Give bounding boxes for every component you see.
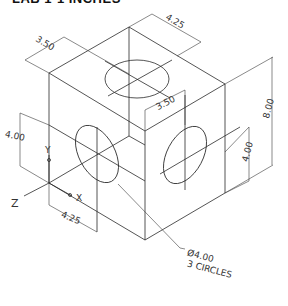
dim-label-top-depth: 3.50: [34, 34, 57, 53]
dim-left-hole-height: 4.00: [4, 113, 49, 183]
dim-label-left-hole-height: 4.00: [4, 129, 26, 143]
dim-label-bottom-width: 4.25: [60, 209, 82, 226]
dim-height-total: 8.00: [225, 57, 276, 193]
axis-label-z: Z: [11, 197, 19, 210]
dim-label-height-total: 8.00: [261, 97, 276, 119]
dim-label-front-inner: 3.50: [154, 94, 177, 112]
dim-label-right-hole-height: 4.00: [240, 140, 255, 162]
ucs-axes: Y X Z: [11, 145, 82, 210]
right-hole: [155, 95, 240, 191]
dim-top-depth: 3.50: [25, 34, 129, 74]
isometric-drawing: 3.50 4.25 3.50 8.00 4.00 4.00: [0, 0, 288, 306]
axis-label-x: X: [76, 193, 82, 203]
top-hole: [105, 60, 172, 98]
cube-outline: [49, 27, 225, 240]
dim-right-hole-height: 4.00: [225, 127, 255, 193]
axis-label-y: Y: [44, 145, 51, 155]
dim-top-width: 4.25: [129, 12, 201, 56]
dim-label-top-width: 4.25: [164, 12, 186, 31]
